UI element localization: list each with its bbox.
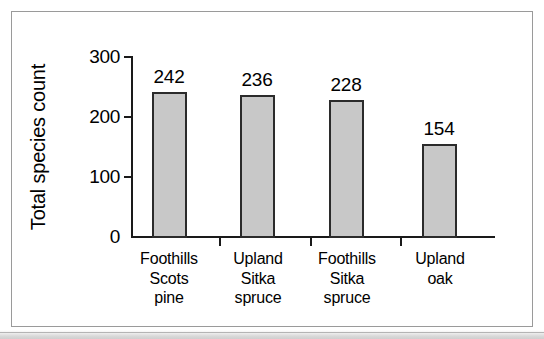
x-category-label-1-line-2: Scots (121, 269, 217, 289)
x-category-label-2-line-3: spruce (210, 288, 306, 308)
x-category-label-2-line-2: Sitka (210, 269, 306, 289)
bar-value-label-1: 242 (134, 67, 204, 86)
x-tick-mark-1 (219, 238, 221, 246)
y-axis-line (131, 56, 133, 238)
bar-upland-oak[interactable] (422, 144, 457, 238)
x-category-label-4: Upland oak (392, 249, 488, 288)
bar-value-label-4: 154 (404, 119, 474, 138)
x-category-label-1-line-1: Foothills (121, 249, 217, 269)
bar-value-label-3: 228 (311, 75, 381, 94)
x-category-label-4-line-2: oak (392, 269, 488, 289)
x-category-label-3-line-3: spruce (299, 288, 395, 308)
scan-edge-artifact (0, 330, 544, 339)
y-tick-label-100: 100 (72, 167, 120, 186)
y-tick-mark-200 (124, 116, 132, 118)
bar-foothills-scots-pine[interactable] (152, 92, 187, 238)
x-category-label-1: Foothills Scots pine (121, 249, 217, 308)
x-tick-mark-3 (400, 238, 402, 246)
x-category-label-1-line-3: pine (121, 288, 217, 308)
x-category-label-2-line-1: Upland (210, 249, 306, 269)
bar-foothills-sitka-spruce[interactable] (329, 100, 364, 238)
x-category-label-3-line-1: Foothills (299, 249, 395, 269)
y-tick-label-0: 0 (72, 227, 120, 246)
y-axis-title: Total species count (25, 62, 51, 232)
x-category-label-3-line-2: Sitka (299, 269, 395, 289)
y-tick-label-300: 300 (72, 47, 120, 66)
y-tick-label-200: 200 (72, 107, 120, 126)
y-tick-mark-100 (124, 176, 132, 178)
x-tick-mark-2 (310, 238, 312, 246)
x-category-label-2: Upland Sitka spruce (210, 249, 306, 308)
bar-chart: Total species count 300 200 100 0 242 Fo… (0, 0, 544, 339)
bar-value-label-2: 236 (222, 70, 292, 89)
y-tick-mark-300 (124, 56, 132, 58)
x-category-label-3: Foothills Sitka spruce (299, 249, 395, 308)
x-category-label-4-line-1: Upland (392, 249, 488, 269)
bar-upland-sitka-spruce[interactable] (240, 95, 275, 238)
